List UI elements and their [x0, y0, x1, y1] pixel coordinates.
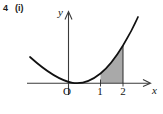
x-axis-label: x [152, 85, 157, 96]
graph-figure [0, 0, 163, 114]
x-tick-label-2: 2 [117, 86, 129, 97]
y-axis-label: y [58, 7, 63, 18]
x-tick-label-1: 1 [94, 86, 106, 97]
origin-label: O [61, 86, 73, 97]
figure-panel: 4 (i) y x O 1 2 [0, 0, 163, 114]
